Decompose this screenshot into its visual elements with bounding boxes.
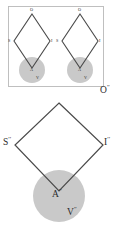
large-diamond-right-sup: ′′ bbox=[107, 135, 110, 142]
right-diamond-apex-label: O bbox=[78, 8, 81, 12]
large-diamond-sub-text: V bbox=[67, 207, 74, 217]
right-diamond-left-label: S bbox=[56, 39, 58, 43]
left-diamond-left-label: S bbox=[8, 39, 10, 43]
large-diamond-right-label: I′′ bbox=[104, 138, 110, 148]
right-diamond-center-label: A bbox=[78, 68, 81, 72]
large-diamond-center-text: A bbox=[52, 189, 59, 199]
large-diamond-left-sup: ′′ bbox=[8, 135, 11, 142]
large-diamond-sub-label: V′′ bbox=[67, 208, 77, 218]
right-diamond-sub-label: V bbox=[84, 76, 87, 80]
large-diamond-center-label: A′′ bbox=[52, 190, 62, 200]
left-diamond-center-label: A bbox=[30, 68, 33, 72]
right-diamond-right-label: I bbox=[99, 39, 100, 43]
large-diamond-apex-text: O bbox=[100, 85, 107, 95]
left-diamond-apex-label: O bbox=[30, 8, 33, 12]
left-diamond-sub-label: V bbox=[36, 76, 39, 80]
large-diamond-sub-sup: ′′ bbox=[74, 205, 77, 212]
large-diamond-center-sup: ′′ bbox=[59, 187, 62, 194]
large-diamond-apex-label: O′′ bbox=[100, 86, 110, 96]
large-diamond-left-label: S′′ bbox=[3, 138, 11, 148]
large-diamond-apex-sup: ′′ bbox=[107, 83, 110, 90]
diagram-figure: O S I A V O S I A V O′′ S′′ I′′ A′′ V′′ bbox=[0, 0, 119, 233]
left-diamond-right-label: I bbox=[51, 39, 52, 43]
